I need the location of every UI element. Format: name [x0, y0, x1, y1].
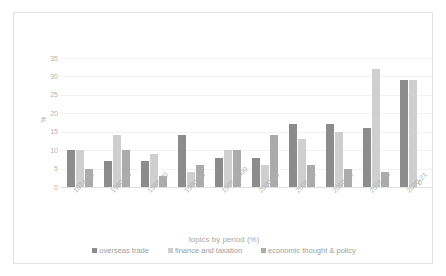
bar — [289, 124, 297, 187]
legend-item[interactable]: finance and taxation — [168, 246, 242, 255]
y-axis-tick-label: 25 — [44, 91, 58, 98]
bar — [215, 158, 223, 187]
bar — [141, 161, 149, 187]
bar-group — [135, 58, 172, 187]
bar-group — [358, 58, 395, 187]
bar-group — [395, 58, 432, 187]
chart-legend: overseas tradefinance and taxationeconom… — [14, 246, 434, 255]
bar-group — [247, 58, 284, 187]
bar-group — [98, 58, 135, 187]
legend-swatch-icon — [92, 248, 97, 253]
bar — [409, 80, 417, 187]
legend-label: overseas trade — [99, 246, 149, 255]
bar — [372, 69, 380, 187]
legend-label: finance and taxation — [175, 246, 242, 255]
y-axis-tick-label: 35 — [44, 55, 58, 62]
legend-swatch-icon — [261, 248, 266, 253]
bar — [363, 128, 371, 187]
bar — [178, 135, 186, 187]
legend-item[interactable]: economic thought & policy — [261, 246, 356, 255]
y-axis-tick-label: 30 — [44, 73, 58, 80]
chart-frame: % 05101520253035 0 1974-801980-851985-90… — [13, 12, 433, 264]
bar — [252, 158, 260, 187]
y-axis-tick-label: 15 — [44, 128, 58, 135]
y-axis-tick-labels: 05101520253035 — [44, 58, 58, 187]
legend-item[interactable]: overseas trade — [92, 246, 149, 255]
bar — [326, 124, 334, 187]
bar-group — [61, 58, 98, 187]
bar — [104, 161, 112, 187]
y-axis-tick-label: 20 — [44, 110, 58, 117]
bar-group — [284, 58, 321, 187]
x-axis-title: topics by period (%) — [14, 235, 434, 244]
bar-group — [321, 58, 358, 187]
bar-group — [172, 58, 209, 187]
x-axis-tick-labels: 1974-801980-851985-901990-951995-2000200… — [61, 189, 432, 233]
legend-swatch-icon — [168, 248, 173, 253]
y-axis-tick-label: 5 — [44, 165, 58, 172]
y-axis-tick-label: 10 — [44, 147, 58, 154]
legend-label: economic thought & policy — [268, 246, 356, 255]
bar — [67, 150, 75, 187]
y-axis-tick-label: 0 — [44, 184, 58, 191]
bar — [400, 80, 408, 187]
